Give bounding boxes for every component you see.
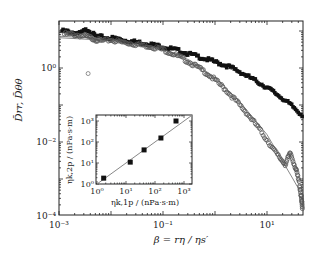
x-tick-label: 10⁻¹	[153, 220, 173, 230]
x-axis-title: β = rη / ηs′	[153, 234, 209, 245]
x-tick-label: 10⁻³	[49, 220, 69, 230]
inset-y-tick-label: 10²	[81, 138, 94, 147]
inset-y-tick-label: 10⁰	[81, 180, 94, 189]
inset-plot: 10⁰10¹10²10³10⁰10¹10²10³ ηk,1p / (nPa·s·…	[65, 115, 192, 207]
fit-line	[59, 36, 303, 116]
inset-x-tick-label: 10²	[148, 187, 161, 196]
inset-y-tick-label: 10³	[81, 117, 94, 126]
inset-data-point	[142, 147, 147, 152]
inset-data-point	[101, 176, 106, 181]
data-point-filled	[300, 115, 304, 119]
data-point-filled	[196, 54, 200, 58]
data-point-open	[86, 72, 90, 76]
inset-y-axis-title: ηk,2p / (nPa·s·m)	[65, 116, 74, 184]
inset-data-point	[128, 160, 133, 165]
inset-data-point	[158, 136, 163, 141]
data-point-filled	[177, 47, 181, 51]
chart: 10⁻³10⁻¹10¹10⁰10⁻²10⁻⁴ β = rη / ηs′ D̄rr…	[0, 0, 319, 262]
y-axis-title: D̄rr, D̄θθ	[13, 79, 24, 123]
inset-y-tick-label: 10¹	[81, 159, 94, 168]
y-tick-label: 10⁻⁴	[36, 211, 56, 221]
inset-data-point	[174, 119, 179, 124]
y-tick-label: 10⁰	[41, 63, 56, 73]
inset-x-tick-label: 10¹	[119, 187, 132, 196]
y-tick-label: 10⁻²	[36, 137, 56, 147]
x-tick-label: 10¹	[259, 220, 274, 230]
inset-x-axis-title: ηk,1p / (nPa·s·m)	[111, 198, 179, 207]
inset-x-tick-label: 10³	[177, 187, 190, 196]
